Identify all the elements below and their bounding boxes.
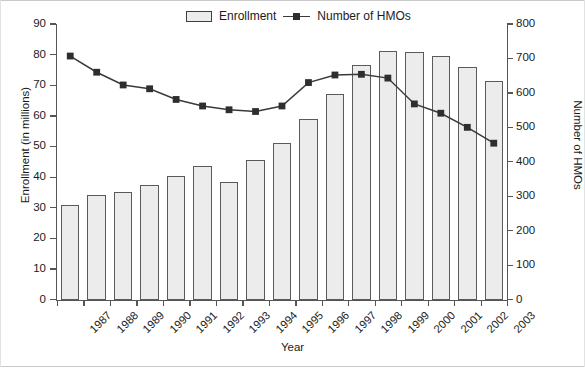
x-tick-label-1989: 1989: [140, 309, 166, 335]
legend-marker-hmos-icon: [283, 11, 310, 22]
hmos-marker-1996: [305, 79, 312, 86]
hmos-marker-1997: [332, 72, 339, 79]
frame-bottom-border: [0, 366, 585, 367]
hmos-marker-1989: [120, 82, 127, 89]
plot-area: 0102030405060708090 01002003004005006007…: [56, 24, 508, 301]
frame-left-border: [0, 0, 1, 367]
hmos-marker-1994: [252, 108, 259, 115]
y-tick-label-right: 600: [516, 87, 556, 98]
y-axis-right-title: Number of HMOs: [572, 50, 584, 240]
legend-label-enrollment: Enrollment: [219, 9, 276, 23]
y-tick-label-right: 700: [516, 52, 556, 63]
hmos-marker-1992: [199, 103, 206, 110]
x-tick-label-2001: 2001: [458, 309, 484, 335]
x-tick-label-1988: 1988: [114, 309, 140, 335]
y-tick-label-right: 100: [516, 259, 556, 270]
x-tick-label-2002: 2002: [485, 309, 511, 335]
hmos-marker-2003: [490, 140, 497, 147]
hmos-marker-1993: [226, 106, 233, 113]
hmos-marker-1991: [173, 96, 180, 103]
x-tick-label-1999: 1999: [405, 309, 431, 335]
y-tick-label-left: 10: [12, 263, 46, 274]
y-tick-label-left: 20: [12, 232, 46, 243]
y-tick-label-right: 500: [516, 121, 556, 132]
y-tick-label-left: 40: [12, 171, 46, 182]
y-tick-label-left: 80: [12, 49, 46, 60]
x-tick-label-1990: 1990: [167, 309, 193, 335]
y-tick-label-right: 200: [516, 225, 556, 236]
y-tick-label-right: 400: [516, 156, 556, 167]
line-series-hmos: [56, 24, 508, 301]
y-tick-label-left: 0: [12, 294, 46, 305]
y-tick-label-right: 800: [516, 18, 556, 29]
hmos-line-svg: [56, 24, 508, 301]
y-tick-label-left: 90: [12, 18, 46, 29]
y-tick-label-left: 30: [12, 202, 46, 213]
x-tick-label-1993: 1993: [246, 309, 272, 335]
legend-swatch-enrollment: [186, 11, 212, 22]
x-tick-label-1996: 1996: [326, 309, 352, 335]
hmos-marker-1987: [67, 53, 74, 60]
y-tick-label-right: 300: [516, 190, 556, 201]
y-tick-label-left: 70: [12, 79, 46, 90]
x-tick-label-1997: 1997: [352, 309, 378, 335]
x-tick-label-2000: 2000: [432, 309, 458, 335]
x-axis-title: Year: [0, 341, 585, 353]
chart-legend: Enrollment Number of HMOs: [186, 8, 411, 24]
x-tick-label-2003: 2003: [511, 309, 537, 335]
frame-top-border: [0, 0, 585, 1]
x-tick-label-1995: 1995: [299, 309, 325, 335]
hmos-marker-1995: [279, 103, 286, 110]
chart-root: Enrollment Number of HMOs Enrollment (in…: [0, 0, 585, 370]
hmos-marker-2000: [411, 101, 418, 108]
y-tick-label-left: 60: [12, 110, 46, 121]
legend-label-hmos: Number of HMOs: [317, 9, 410, 23]
x-tick-label-1987: 1987: [88, 309, 114, 335]
hmos-marker-1990: [146, 85, 153, 92]
x-tick-label-1991: 1991: [193, 309, 219, 335]
x-tick-label-1992: 1992: [220, 309, 246, 335]
hmos-line-path: [70, 56, 494, 143]
hmos-marker-2002: [464, 124, 471, 131]
y-tick-label-left: 50: [12, 140, 46, 151]
y-tick-label-right: 0: [516, 294, 556, 305]
hmos-marker-2001: [437, 110, 444, 117]
hmos-marker-1999: [384, 75, 391, 82]
x-tick-label-1998: 1998: [379, 309, 405, 335]
hmos-marker-1988: [93, 69, 100, 76]
hmos-marker-1998: [358, 71, 365, 78]
x-tick-label-1994: 1994: [273, 309, 299, 335]
